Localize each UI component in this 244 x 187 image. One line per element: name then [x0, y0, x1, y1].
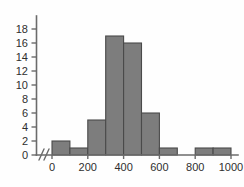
x-tick-label: 1000 — [219, 161, 243, 173]
x-tick-label: 200 — [79, 161, 97, 173]
histogram-svg: 024681012141618 02004006008001000 — [0, 0, 244, 187]
histogram-bar — [124, 43, 142, 155]
x-tick-label: 0 — [49, 161, 55, 173]
x-tick-label: 800 — [186, 161, 204, 173]
y-tick-label: 4 — [22, 121, 28, 133]
y-tick-label: 10 — [16, 79, 28, 91]
histogram-bar — [195, 148, 213, 155]
x-tick-label: 600 — [150, 161, 168, 173]
x-tick-label: 400 — [114, 161, 132, 173]
x-axis-group — [37, 155, 239, 159]
histogram-bar — [88, 120, 106, 155]
y-tick-label: 8 — [22, 93, 28, 105]
histogram-bar — [142, 113, 160, 155]
x-tick-labels: 02004006008001000 — [49, 161, 243, 173]
histogram-bar — [159, 148, 177, 155]
histogram-bar — [106, 36, 124, 155]
y-tick-label: 6 — [22, 107, 28, 119]
y-tick-label: 12 — [16, 65, 28, 77]
histogram-chart: 024681012141618 02004006008001000 — [0, 0, 244, 187]
y-axis-group — [32, 16, 37, 155]
histogram-bar — [70, 148, 88, 155]
histogram-bar — [52, 141, 70, 155]
histogram-bar — [213, 148, 231, 155]
y-tick-label: 2 — [22, 135, 28, 147]
y-tick-labels: 024681012141618 — [16, 23, 28, 161]
y-tick-label: 18 — [16, 23, 28, 35]
y-tick-label: 0 — [22, 149, 28, 161]
y-tick-label: 14 — [16, 51, 28, 63]
bars-group — [52, 36, 231, 155]
y-tick-label: 16 — [16, 37, 28, 49]
